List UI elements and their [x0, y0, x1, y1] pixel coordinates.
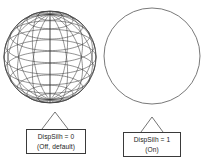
callout-left-pointer — [42, 112, 68, 129]
callout-dispsilh-0: DispSilh = 0 (Off, default) — [26, 129, 86, 154]
callout-left-line2: (Off, default) — [27, 142, 85, 152]
callout-left-line1: DispSilh = 0 — [27, 132, 85, 142]
callout-right-line2: (On) — [124, 145, 180, 155]
callout-right-line1: DispSilh = 1 — [124, 135, 180, 145]
callout-right-pointer — [141, 117, 163, 132]
callout-dispsilh-1: DispSilh = 1 (On) — [123, 132, 181, 157]
silhouette-circle — [104, 8, 200, 104]
dispsilh-comparison-figure: DispSilh = 0 (Off, default) DispSilh = 1… — [0, 0, 207, 161]
